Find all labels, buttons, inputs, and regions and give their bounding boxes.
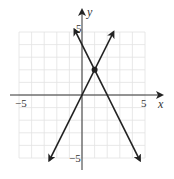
series-line-1 xyxy=(49,32,113,161)
x-axis-label: x xyxy=(157,97,164,111)
points-group xyxy=(92,67,98,73)
intersection-point xyxy=(92,67,98,73)
x-tick-label: 5 xyxy=(141,97,147,109)
y-axis-label: y xyxy=(86,5,93,19)
x-tick-label: −5 xyxy=(15,97,27,109)
y-tick-label: −5 xyxy=(69,152,81,164)
y-tick-label: 5 xyxy=(76,22,82,34)
chart: x y −555−5 xyxy=(0,0,174,179)
